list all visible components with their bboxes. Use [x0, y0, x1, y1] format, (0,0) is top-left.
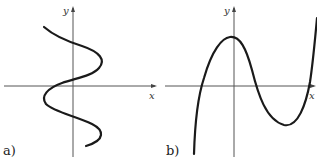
panel-b-x-label: x [309, 90, 315, 101]
panel-a-x-label: x [149, 90, 155, 101]
panel-b-y-arrow-icon [232, 6, 236, 12]
panel-b: y x b) [165, 5, 317, 158]
panel-a: y x a) [3, 5, 157, 158]
panel-a-x-arrow-icon [151, 84, 157, 88]
panel-a-y-arrow-icon [71, 6, 75, 12]
panel-b-x-arrow-icon [310, 84, 316, 88]
panel-a-y-label: y [62, 5, 69, 16]
panel-b-y-label: y [223, 5, 230, 16]
panel-a-label: a) [3, 143, 16, 158]
figure-canvas: y x a) y x b) [0, 0, 317, 161]
panel-b-label: b) [166, 143, 179, 158]
